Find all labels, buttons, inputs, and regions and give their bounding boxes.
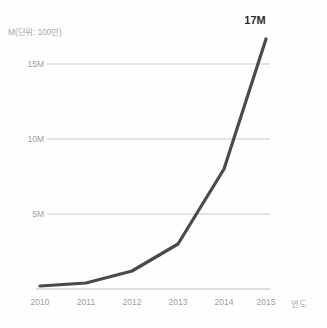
x-tick-label-2013: 2013 [161,297,195,307]
y-tick-label-10m: 10M [14,134,44,144]
x-tick-label-2014: 2014 [207,297,241,307]
y-tick-label-15m: 15M [14,59,44,69]
data-series-line [40,39,266,286]
peak-value-annotation: 17M [235,14,275,26]
line-chart: M(단위: 100만) 15M 10M 5M 2010 2011 2012 20… [0,0,327,328]
x-tick-label-2012: 2012 [115,297,149,307]
x-tick-label-2010: 2010 [23,297,57,307]
x-tick-label-2015: 2015 [249,297,283,307]
chart-plot-area [0,0,327,328]
gridlines [47,64,270,214]
y-tick-label-5m: 5M [14,209,44,219]
x-tick-label-2011: 2011 [69,297,103,307]
x-axis-title: 연도 [291,297,307,309]
